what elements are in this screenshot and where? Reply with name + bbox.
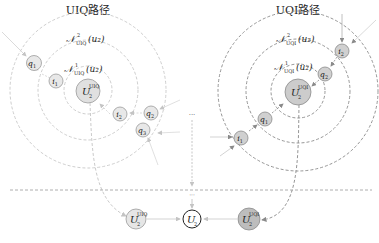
svg-text:2: 2 [287, 32, 290, 38]
node-q2: q2 [318, 67, 332, 81]
edge-in-q2 [160, 100, 180, 109]
svg-text:UQI: UQI [249, 211, 259, 217]
svg-text:1: 1 [75, 62, 78, 68]
edge-in-i2b [352, 20, 376, 43]
node-q2: q2 [144, 106, 158, 120]
center-node-uqi: U UQI 2 [285, 79, 311, 105]
svg-text:(u₂): (u₂) [296, 62, 313, 72]
bottom-node-u2: U 2 [183, 210, 201, 228]
edge-in-q1 [2, 32, 26, 56]
edge-in-i1b [220, 146, 234, 156]
svg-text:UQI: UQI [286, 40, 296, 46]
center-node-uiq: U UIQ 2 [76, 79, 100, 103]
edge-in-q3a [158, 132, 180, 133]
node-i2: i2 [113, 107, 127, 121]
svg-text:2: 2 [194, 221, 197, 227]
svg-text:2: 2 [137, 221, 140, 227]
right-title: UQI路径 [276, 4, 321, 17]
middle-ellipsis-top: ··· [189, 111, 196, 119]
svg-text:2: 2 [77, 32, 80, 38]
edge-i2-center [100, 104, 110, 114]
right-panel: i2 q2 U UQI 2 q1 i1 𝒩 2 UQI (u₂) 𝒩 1 UQI… [210, 11, 378, 220]
edge-q1-center [272, 104, 283, 113]
bottom-node-uqi: U UQI 2 [238, 208, 260, 230]
left-panel: q1 i1 U UIQ 2 i2 q2 q3 𝒩 2 UIQ (u₂) 𝒩 [2, 12, 180, 216]
svg-text:2: 2 [249, 221, 252, 227]
node-i1: i1 [49, 74, 63, 88]
bottom-node-uiq: U UIQ 2 [126, 209, 147, 229]
node-q3: q3 [136, 123, 150, 137]
edge-q2-center [312, 80, 319, 86]
svg-text:(u₂): (u₂) [298, 34, 315, 44]
node-q1: q1 [258, 112, 272, 126]
svg-text:(u₂): (u₂) [86, 64, 103, 74]
svg-text:UQI: UQI [298, 84, 308, 90]
svg-text:UIQ: UIQ [74, 70, 84, 76]
svg-text:UIQ: UIQ [137, 211, 147, 217]
svg-text:UIQ: UIQ [89, 83, 99, 89]
node-i1: i1 [234, 131, 248, 145]
svg-text:UQI: UQI [284, 68, 294, 74]
middle-ellipsis-bottom: ··· [189, 191, 195, 198]
node-q1: q1 [27, 56, 42, 71]
svg-text:2: 2 [89, 93, 92, 99]
node-i2: i2 [335, 44, 349, 58]
edge-in-q3b [148, 138, 158, 165]
diagram-canvas: UIQ路径 UQI路径 q1 i1 U UIQ 2 [0, 0, 379, 243]
svg-text:2: 2 [298, 94, 301, 100]
left-title: UIQ路径 [66, 4, 111, 17]
edge-i1-q1 [249, 125, 257, 131]
edge-i2-q2 [331, 57, 337, 66]
svg-text:(u₂): (u₂) [88, 34, 105, 44]
svg-text:1: 1 [285, 60, 288, 66]
svg-text:UIQ: UIQ [76, 40, 86, 46]
